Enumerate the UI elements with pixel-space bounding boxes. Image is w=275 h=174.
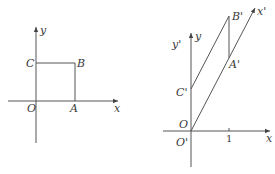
oblique-parallelogram-figure: y' y x' x B' A' C' O O' 1 (163, 5, 273, 167)
point-c-prime-label: C' (176, 86, 187, 99)
side-c-b (191, 16, 229, 89)
point-a-prime-label: A' (228, 58, 240, 71)
x-axis-label: x (266, 132, 273, 145)
point-o-label: O (179, 118, 188, 131)
y-axis-label: y (39, 24, 47, 37)
x-prime-axis-label: x' (257, 5, 266, 18)
point-a-label: A (69, 102, 78, 115)
tick-1-label: 1 (226, 133, 232, 144)
y-prime-axis-label: y' (171, 38, 181, 51)
point-c-label: C (26, 57, 35, 70)
diagram-canvas: y x C B O A y' y x' x B' A' C' O O' 1 (0, 0, 275, 174)
point-b-prime-label: B' (231, 10, 243, 23)
x-axis-label: x (114, 102, 121, 115)
point-o-prime-label: O' (176, 136, 188, 149)
point-o-label: O (27, 102, 36, 115)
square-sides (36, 63, 75, 101)
original-square-figure: y x C B O A (8, 24, 121, 143)
y-axis-label: y (194, 30, 202, 43)
point-b-label: B (76, 57, 85, 70)
